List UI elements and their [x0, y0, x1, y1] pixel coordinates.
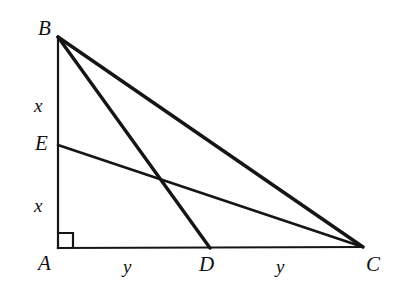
geometry-diagram: B E A D C x x y y: [0, 0, 398, 303]
vertex-label-c: C: [366, 254, 380, 275]
vertex-label-a: A: [38, 253, 51, 274]
length-label-be: x: [34, 96, 42, 115]
segment-bc: [58, 37, 363, 247]
vertex-label-d: D: [199, 254, 214, 275]
segment-ec: [58, 145, 363, 247]
length-label-ad: y: [123, 257, 131, 276]
length-label-ea: x: [34, 196, 42, 215]
length-label-dc: y: [276, 257, 284, 276]
right-angle-marker-at-a: [58, 233, 73, 248]
segment-bd: [58, 37, 210, 248]
vertex-label-e: E: [35, 133, 48, 154]
vertex-label-b: B: [38, 18, 51, 39]
